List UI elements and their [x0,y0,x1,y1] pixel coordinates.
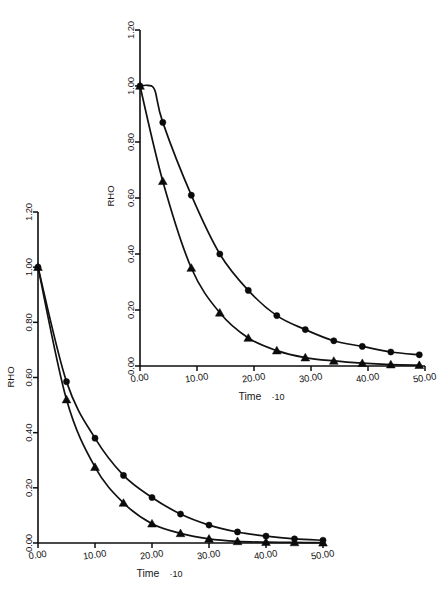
x-tick-label: 10.00 [184,370,209,384]
y-tick-label: 0.60 [125,189,136,207]
data-point-circle [217,251,223,257]
data-point-circle [331,338,337,344]
data-point-triangle [158,177,167,185]
x-axis-title: Time [137,567,160,579]
data-point-circle [274,313,280,319]
data-point-triangle [91,463,100,471]
y-tick-label: 1.00 [23,258,34,276]
x-axis-title-suffix: ·10 [271,392,284,402]
x-tick-label-group: 0.0010.0020.0030.0040.0050.00 [130,370,437,384]
upper-right-chart-svg: 0.000.200.400.600.801.001.20 0.0010.0020… [100,10,442,420]
data-point-circle [188,192,194,198]
data-point-triangle [148,519,157,527]
y-tick-label: 0.20 [125,301,136,319]
x-axis-title-suffix: ·10 [169,569,182,579]
data-point-circle [359,343,365,349]
y-axis-title: RHO [105,185,116,206]
data-point-circle [206,522,212,528]
data-point-triangle [62,395,71,403]
data-point-circle [177,511,183,517]
data-point-circle [63,379,69,385]
series-markers-triangles [136,82,424,369]
y-tick-label-group: 0.000.200.400.600.801.001.20 [125,21,136,375]
data-point-circle [245,287,251,293]
x-tick-label: 20.00 [241,370,266,384]
x-tick-label: 0.00 [130,371,149,384]
data-point-circle [92,435,98,441]
y-tick-label-group: 0.000.200.400.600.801.001.20 [23,203,34,552]
y-tick-label: 0.40 [125,245,136,263]
y-tick-label: 1.00 [125,77,136,95]
data-point-circle [302,327,308,333]
x-tick-label: 40.00 [253,547,278,561]
data-point-triangle [187,264,196,272]
upper-right-chart: 0.000.200.400.600.801.001.20 0.0010.0020… [100,10,442,420]
data-point-circle [234,529,240,535]
x-axis-title: Time [239,390,262,402]
y-tick-label: 0.40 [23,424,34,442]
x-tick-label: 20.00 [139,547,164,561]
series-markers-circles [137,83,423,358]
figure-canvas: 0.000.200.400.600.801.001.20 0.0010.0020… [0,0,442,596]
x-tick-label-group: 0.0010.0020.0030.0040.0050.00 [28,547,335,561]
x-tick-label: 0.00 [28,548,47,561]
x-tick-label: 50.00 [310,547,335,561]
series-group [136,82,424,369]
data-point-circle [149,494,155,500]
y-tick-label: 1.20 [125,21,136,39]
series-line-triangles [140,86,419,365]
data-point-circle [388,349,394,355]
x-tick-label: 30.00 [196,547,221,561]
x-tick-label: 10.00 [82,547,107,561]
x-tick-label: 40.00 [355,370,380,384]
x-tick-label: 30.00 [298,370,323,384]
inset-axes [140,30,425,366]
y-axis-title: RHO [5,366,16,387]
data-point-triangle [244,334,253,342]
x-tick-label: 50.00 [412,370,437,384]
y-tick-label: 0.80 [23,313,34,331]
data-point-circle [120,472,126,478]
data-point-circle [416,352,422,358]
y-tick-label: 0.20 [23,479,34,497]
y-tick-label: 0.80 [125,133,136,151]
y-tick-label: 0.60 [23,368,34,386]
data-point-circle [160,119,166,125]
y-tick-label: 1.20 [23,203,34,221]
